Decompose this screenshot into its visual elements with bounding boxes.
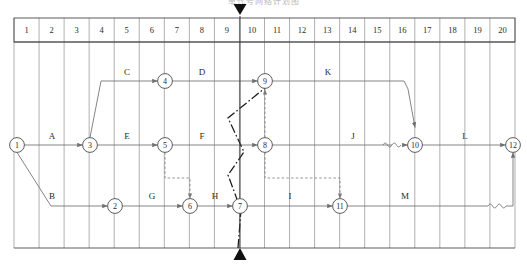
timescale-gridlines	[14, 18, 515, 248]
timescale-tick-9: 9	[225, 25, 229, 35]
event-node-3[interactable]: 3	[83, 138, 98, 153]
timescale-tick-12: 12	[298, 25, 307, 35]
timescale-tick-19: 19	[473, 25, 482, 35]
event-node-5[interactable]: 5	[158, 138, 173, 153]
node-label-6: 6	[188, 202, 192, 211]
node-label-3: 3	[88, 141, 92, 150]
network-diagram-page: 单代号网络计划图 1234567891011121314151617181920…	[0, 0, 527, 272]
activity-label-M: M	[401, 191, 409, 201]
node-label-1: 1	[15, 141, 19, 150]
timescale-tick-16: 16	[398, 25, 407, 35]
timescale-tick-8: 8	[200, 25, 204, 35]
event-node-7[interactable]: 7	[233, 199, 248, 214]
event-node-11[interactable]: 11	[333, 199, 348, 214]
event-node-12[interactable]: 12	[506, 138, 521, 153]
timescale-tick-13: 13	[323, 25, 332, 35]
event-node-2[interactable]: 2	[108, 199, 123, 214]
event-node-9[interactable]: 9	[258, 74, 273, 89]
activity-label-J: J	[351, 131, 355, 141]
timescale-tick-7: 7	[175, 25, 179, 35]
timescale-tick-4: 4	[100, 25, 105, 35]
arrow-C	[90, 81, 158, 138]
node-label-8: 8	[263, 141, 267, 150]
critical-path-chain	[228, 88, 265, 248]
activity-label-C: C	[124, 67, 130, 77]
activity-label-L: L	[462, 131, 468, 141]
dummy-links	[165, 89, 340, 198]
current-time-bottom-triangle[interactable]	[234, 248, 247, 260]
timescale-tick-14: 14	[348, 25, 357, 35]
timescale-tick-6: 6	[150, 25, 154, 35]
activity-label-H: H	[212, 191, 219, 201]
float-wave-before-12	[488, 204, 506, 208]
timescale-tick-2: 2	[49, 25, 53, 35]
timescale-tick-15: 15	[373, 25, 382, 35]
node-label-10: 10	[411, 141, 419, 150]
node-label-4: 4	[163, 77, 167, 86]
diagram-canvas: 1234567891011121314151617181920ABCDEFGHI…	[0, 0, 527, 272]
activity-labels: ABCDEFGHIJKLM	[49, 67, 468, 201]
node-label-9: 9	[263, 77, 267, 86]
timescale-tick-17: 17	[423, 25, 432, 35]
timescale-tick-20: 20	[498, 25, 507, 35]
timescale-tick-3: 3	[75, 25, 79, 35]
activity-label-F: F	[199, 131, 204, 141]
timescale-tick-1: 1	[24, 25, 28, 35]
node-label-7: 7	[238, 202, 242, 211]
event-node-6[interactable]: 6	[183, 199, 198, 214]
node-label-11: 11	[336, 202, 344, 211]
current-time-top-triangle[interactable]	[234, 4, 247, 15]
timescale-tick-10: 10	[248, 25, 257, 35]
event-node-8[interactable]: 8	[258, 138, 273, 153]
node-label-12: 12	[509, 141, 517, 150]
timescale-tick-5: 5	[125, 25, 129, 35]
dummy-5-to-6	[165, 152, 190, 198]
dummy-8-to-11	[265, 152, 340, 198]
event-node-1[interactable]: 1	[10, 138, 25, 153]
activity-label-G: G	[149, 191, 156, 201]
arrow-M-head	[506, 152, 513, 206]
activity-label-D: D	[199, 67, 206, 77]
timescale-tick-11: 11	[273, 25, 281, 35]
event-node-10[interactable]: 10	[408, 138, 423, 153]
activity-label-E: E	[124, 131, 130, 141]
event-node-4[interactable]: 4	[158, 74, 173, 89]
node-label-2: 2	[113, 202, 117, 211]
activity-label-A: A	[49, 131, 56, 141]
activity-label-B: B	[49, 191, 55, 201]
timescale-tick-18: 18	[448, 25, 457, 35]
critical-path-line	[228, 88, 265, 248]
arrow-K	[272, 81, 415, 128]
activity-label-K: K	[325, 67, 332, 77]
arrow-B	[17, 152, 108, 206]
node-label-5: 5	[163, 141, 167, 150]
activity-label-I: I	[289, 191, 292, 201]
